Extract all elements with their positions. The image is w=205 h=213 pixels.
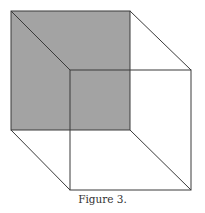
figure-caption: Figure 3.: [0, 193, 205, 205]
necker-cube-diagram: [0, 0, 205, 213]
edge-top-right: [130, 11, 191, 70]
edge-bottom-left: [11, 130, 70, 190]
edge-bottom-right: [130, 130, 191, 190]
